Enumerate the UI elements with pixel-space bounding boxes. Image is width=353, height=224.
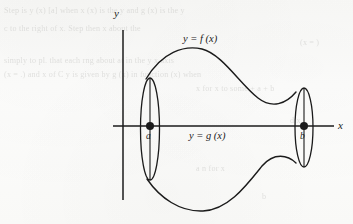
x-axis-label: x — [338, 119, 343, 131]
point-b-marker — [300, 122, 308, 130]
solid-of-revolution-diagram — [0, 0, 353, 224]
point-b-label: b — [300, 131, 305, 141]
figure-page: Step is y (x) [a] when x (x) is the y an… — [0, 0, 353, 224]
curve-f-of-x — [146, 48, 296, 104]
curve-f-label: y = f (x) — [183, 33, 217, 44]
curve-g-label: y = g (x) — [189, 130, 226, 141]
point-a-marker — [146, 122, 154, 130]
curve-g-of-x — [147, 156, 296, 211]
y-axis-label: y — [114, 7, 119, 19]
point-a-label: a — [146, 131, 151, 141]
